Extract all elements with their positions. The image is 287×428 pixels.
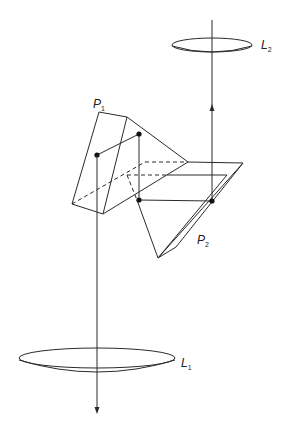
- arrow-down-icon: [95, 407, 100, 414]
- prism-p2: [127, 162, 243, 258]
- label-p1: P1: [93, 97, 105, 112]
- internal-ray: [94, 131, 214, 203]
- arrow-up-icon: [210, 104, 215, 111]
- prism-diagram: [0, 0, 287, 428]
- prism-p1: [72, 112, 188, 214]
- label-p2: P2: [197, 233, 209, 248]
- label-l1: L1: [181, 356, 192, 371]
- label-l2: L2: [261, 38, 272, 53]
